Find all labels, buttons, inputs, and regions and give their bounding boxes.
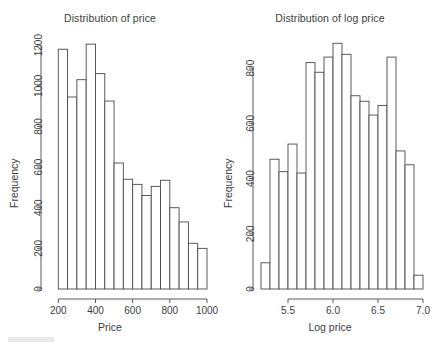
- x-axis-title-log-price: Log price: [220, 321, 440, 333]
- histogram-bar: [342, 54, 351, 289]
- y-axis-tick-label: 200: [33, 240, 44, 257]
- y-axis-tick-label: 600: [33, 158, 44, 175]
- histogram-bar: [179, 222, 188, 289]
- histogram-bar: [387, 57, 396, 289]
- y-axis-tick-label: 800: [33, 118, 44, 135]
- y-axis-tick-label: 200: [245, 225, 256, 242]
- histogram-bars: [261, 43, 423, 289]
- histogram-bar: [58, 49, 67, 289]
- histogram-bar: [86, 44, 95, 289]
- histogram-bar: [151, 186, 160, 289]
- y-axis-tick-label: 0: [245, 286, 256, 292]
- y-axis-tick-label: 400: [245, 170, 256, 187]
- histogram-bar: [77, 80, 86, 289]
- x-axis-tick-label: 1000: [196, 305, 219, 316]
- log-price-histogram-plot: 02004006008005.56.06.57.0: [220, 0, 440, 343]
- x-axis-tick-label: 800: [161, 305, 178, 316]
- histogram-bar: [351, 96, 360, 289]
- panel-price-histogram: Distribution of price 020040060080010001…: [0, 0, 220, 343]
- x-axis-tick-label: 200: [50, 305, 67, 316]
- x-axis-title-price: Price: [0, 321, 220, 333]
- histogram-bar: [288, 144, 297, 289]
- histogram-bar: [270, 159, 279, 289]
- histogram-bar: [105, 101, 114, 289]
- histogram-bars: [58, 44, 207, 289]
- histogram-bar: [396, 151, 405, 289]
- y-axis-title-log-price: Frequency: [222, 158, 234, 208]
- histogram-bar: [133, 184, 142, 289]
- y-axis-tick-label: 800: [245, 59, 256, 76]
- histogram-bar: [360, 101, 369, 289]
- histogram-bar: [378, 105, 387, 289]
- histogram-bar: [333, 43, 342, 289]
- x-axis-tick-label: 400: [87, 305, 104, 316]
- histogram-bar: [297, 173, 306, 289]
- histogram-bar: [414, 275, 423, 289]
- histogram-bar: [405, 165, 414, 289]
- x-axis-tick-label: 600: [124, 305, 141, 316]
- histogram-bar: [261, 263, 270, 289]
- histogram-bar: [142, 196, 151, 289]
- page-artifact: [8, 337, 54, 342]
- y-axis-title-price: Frequency: [8, 158, 20, 208]
- x-axis-tick-label: 5.5: [281, 305, 295, 316]
- histogram-bar: [114, 163, 123, 289]
- histogram-bar: [188, 243, 197, 289]
- y-axis-tick-label: 1000: [33, 74, 44, 97]
- histogram-bar: [279, 172, 288, 289]
- y-axis-tick-label: 0: [33, 286, 44, 292]
- histogram-bar: [161, 180, 170, 289]
- x-axis-tick-label: 6.0: [326, 305, 340, 316]
- panel-log-price-histogram: Distribution of log price 02004006008005…: [220, 0, 440, 343]
- histogram-bar: [95, 74, 104, 289]
- histogram-bar: [324, 57, 333, 289]
- histogram-bar: [68, 97, 77, 289]
- y-axis-tick-label: 400: [33, 199, 44, 216]
- y-axis-tick-label: 1200: [33, 34, 44, 57]
- histogram-bar: [369, 115, 378, 289]
- histogram-bar: [123, 179, 132, 289]
- histogram-bar: [306, 63, 315, 289]
- x-axis-tick-label: 6.5: [371, 305, 385, 316]
- y-axis-tick-label: 600: [245, 115, 256, 132]
- figure-container: Distribution of price 020040060080010001…: [0, 0, 441, 343]
- x-axis-tick-label: 7.0: [416, 305, 430, 316]
- histogram-bar: [315, 72, 324, 289]
- histogram-bar: [170, 208, 179, 289]
- histogram-bar: [198, 248, 207, 289]
- price-histogram-plot: 0200400600800100012002004006008001000: [0, 0, 220, 343]
